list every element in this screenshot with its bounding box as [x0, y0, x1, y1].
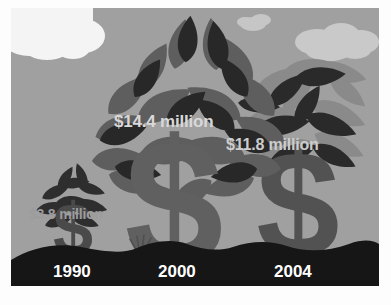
artwork-panel: $	[11, 8, 379, 286]
infographic-root: $	[0, 0, 391, 305]
money-tree-scene: $	[11, 8, 379, 286]
